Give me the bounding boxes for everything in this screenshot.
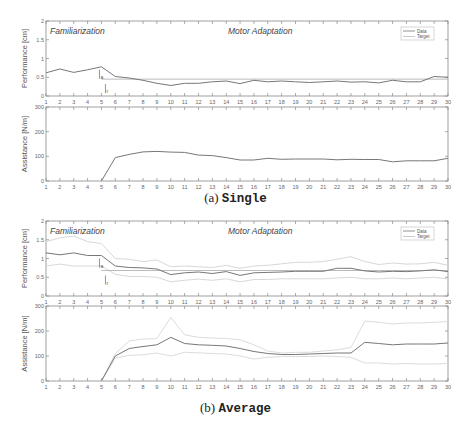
x-tick-label: 19: [292, 99, 298, 105]
phase-label-motor-adaptation: Motor Adaptation: [228, 26, 293, 36]
y-axis-label: Performance [cm]: [20, 29, 29, 88]
x-tick-label: 7: [128, 299, 131, 305]
x-tick-label: 11: [182, 99, 188, 105]
x-tick-label: 15: [237, 99, 243, 105]
caption-average-name: Average: [218, 402, 271, 416]
x-tick-label: 23: [348, 299, 354, 305]
x-tick-label: 6: [114, 99, 117, 105]
x-tick-label: 1: [44, 384, 47, 390]
y-tick-label: 2: [41, 18, 44, 24]
x-tick-label: 28: [417, 384, 423, 390]
x-tick-label: 23: [348, 99, 354, 105]
x-tick-label: 9: [155, 99, 158, 105]
legend-target: Target: [417, 34, 430, 39]
y-tick-label: 1.5: [36, 37, 44, 43]
y-tick-label: 0: [41, 378, 44, 384]
x-tick-label: 25: [376, 299, 382, 305]
x-tick-label: 20: [306, 99, 312, 105]
x-tick-label: 27: [403, 99, 409, 105]
x-tick-label: 22: [334, 384, 340, 390]
x-tick-label: 13: [209, 299, 215, 305]
x-tick-label: 15: [237, 299, 243, 305]
x-tick-label: 16: [251, 384, 257, 390]
legend-target: Target: [417, 234, 430, 239]
x-tick-label: 28: [417, 299, 423, 305]
x-tick-label: 20: [306, 299, 312, 305]
caption-single-prefix: (a): [204, 190, 218, 205]
x-tick-label: 3: [72, 384, 75, 390]
y-tick-label: 300: [35, 104, 44, 110]
x-tick-label: 6: [114, 384, 117, 390]
x-tick-label: 27: [403, 299, 409, 305]
x-tick-label: 18: [279, 299, 285, 305]
x-tick-label: 4: [86, 99, 89, 105]
caption-single-name: Single: [222, 192, 267, 206]
figure-canvas: 1234567891011121314151617181920212223242…: [0, 0, 471, 431]
y-tick-label: 100: [35, 353, 44, 359]
x-tick-label: 10: [168, 99, 174, 105]
x-tick-label: 29: [431, 99, 437, 105]
x-tick-label: 17: [265, 299, 271, 305]
y-tick-label: 0: [41, 93, 44, 99]
x-tick-label: 26: [389, 99, 395, 105]
x-tick-label: 22: [334, 299, 340, 305]
x-tick-label: 10: [168, 299, 174, 305]
x-tick-label: 1: [44, 299, 47, 305]
x-tick-label: 8: [142, 99, 145, 105]
x-tick-label: 21: [320, 299, 326, 305]
x-tick-label: 16: [251, 299, 257, 305]
x-tick-label: 24: [362, 99, 368, 105]
x-tick-label: 24: [362, 299, 368, 305]
x-tick-label: 11: [182, 299, 188, 305]
x-tick-label: 28: [417, 99, 423, 105]
x-tick-label: 27: [403, 384, 409, 390]
x-tick-label: 1: [44, 99, 47, 105]
x-tick-label: 9: [155, 384, 158, 390]
caption-single: (a) Single: [0, 190, 471, 206]
phase-label-motor-adaptation: Motor Adaptation: [228, 226, 293, 236]
x-tick-label: 24: [362, 384, 368, 390]
x-tick-label: 29: [431, 299, 437, 305]
y-tick-label: 0.5: [36, 74, 44, 80]
x-tick-label: 5: [100, 384, 103, 390]
x-tick-label: 2: [58, 99, 61, 105]
figure-caption-cutoff: ​: [0, 424, 471, 431]
x-tick-label: 8: [142, 384, 145, 390]
x-tick-label: 22: [334, 99, 340, 105]
chart-average: 1234567891011121314151617181920212223242…: [20, 218, 451, 390]
x-tick-label: 20: [306, 384, 312, 390]
y-tick-label: 100: [35, 153, 44, 159]
x-tick-label: 30: [445, 384, 451, 390]
x-tick-label: 4: [86, 384, 89, 390]
legend: DataTarget: [401, 27, 434, 40]
assistance-axes: 1234567891011121314151617181920212223242…: [20, 104, 451, 190]
y-tick-label: 300: [35, 303, 44, 309]
x-tick-label: 12: [195, 384, 201, 390]
x-tick-label: 16: [251, 99, 257, 105]
caption-average-prefix: (b): [200, 400, 215, 415]
y-axis-label: Assistance [N/m]: [20, 116, 29, 172]
ja-label: a: [100, 263, 103, 269]
x-tick-label: 7: [128, 99, 131, 105]
x-tick-label: 13: [209, 99, 215, 105]
x-tick-label: 8: [142, 299, 145, 305]
chart-single: 1234567891011121314151617181920212223242…: [20, 18, 451, 190]
y-axis-label: Performance [cm]: [20, 229, 29, 288]
x-tick-label: 26: [389, 384, 395, 390]
x-tick-label: 19: [292, 384, 298, 390]
x-tick-label: 21: [320, 384, 326, 390]
y-tick-label: 1: [41, 256, 44, 262]
y-tick-label: 200: [35, 328, 44, 334]
x-tick-label: 18: [279, 384, 285, 390]
x-tick-label: 7: [128, 384, 131, 390]
x-tick-label: 2: [58, 299, 61, 305]
x-tick-label: 18: [279, 99, 285, 105]
x-tick-label: 14: [223, 384, 229, 390]
x-tick-label: 13: [209, 384, 215, 390]
x-tick-label: 14: [223, 299, 229, 305]
x-tick-label: 14: [223, 99, 229, 105]
x-tick-label: 4: [86, 299, 89, 305]
x-tick-label: 11: [182, 384, 188, 390]
x-tick-label: 12: [195, 299, 201, 305]
x-tick-label: 2: [58, 384, 61, 390]
